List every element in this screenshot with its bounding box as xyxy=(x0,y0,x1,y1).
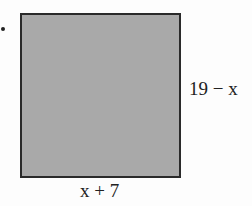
bullet-dot xyxy=(1,27,5,31)
side-label-bottom: x + 7 xyxy=(80,180,119,202)
side-label-right: 19 − x xyxy=(189,78,238,100)
shaded-square xyxy=(20,13,181,178)
